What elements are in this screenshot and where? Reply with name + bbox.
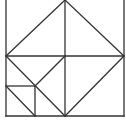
- diamond-top-left-line: [6, 0, 65, 56]
- inner-diagonal-line: [35, 56, 65, 86]
- small-square-diagonal-line: [6, 86, 35, 116]
- diamond-bottom-right-line: [65, 56, 124, 116]
- geometric-diagram: [0, 0, 126, 122]
- diamond-top-right-line: [65, 0, 124, 56]
- dissection-figure: [0, 0, 126, 122]
